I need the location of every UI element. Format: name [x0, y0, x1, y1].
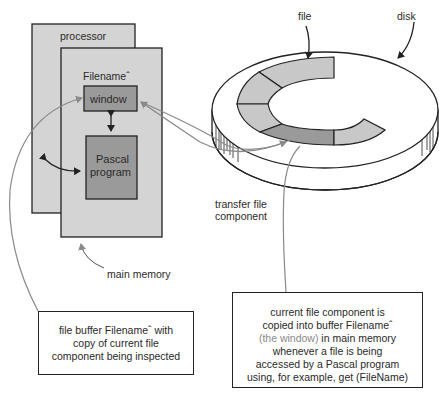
window-label: window — [90, 93, 127, 105]
left-note-line1: file buffer Filenameˆ with — [39, 324, 193, 337]
file-label: file — [298, 10, 311, 22]
disk-pointer-arrow — [398, 22, 414, 58]
right-note-line1: current file component is — [233, 306, 422, 319]
right-note-line2: copied into buffer Filenameˆ — [233, 319, 422, 332]
pascal-label-line2: program — [90, 166, 131, 178]
filename-label: Filenameˆ — [83, 70, 130, 82]
transfer-label-line2: component — [215, 210, 267, 222]
right-note-line3: (the window) in main memory — [233, 332, 422, 345]
right-note-line3-rest: in main memory — [318, 332, 396, 344]
disk-label: disk — [397, 10, 416, 22]
right-note-box: current file component is copied into bu… — [232, 292, 423, 388]
left-note-box: file buffer Filenameˆ with copy of curre… — [38, 311, 194, 375]
main-memory-pointer — [81, 244, 104, 268]
transfer-label-line1: transfer file — [215, 198, 267, 210]
pascal-label-line1: Pascal — [96, 153, 129, 165]
right-note-line5: accessed by a Pascal program — [233, 358, 422, 371]
left-note-line3: component being inspected — [39, 350, 193, 363]
main-memory-label: main memory — [107, 268, 171, 280]
processor-label: processor — [60, 30, 106, 42]
right-note-highlight: (the window) — [259, 332, 319, 344]
right-note-line6: using, for example, get (FileName) — [233, 371, 422, 384]
left-note-line2: copy of current file — [39, 337, 193, 350]
right-note-line4: whenever a file is being — [233, 345, 422, 358]
